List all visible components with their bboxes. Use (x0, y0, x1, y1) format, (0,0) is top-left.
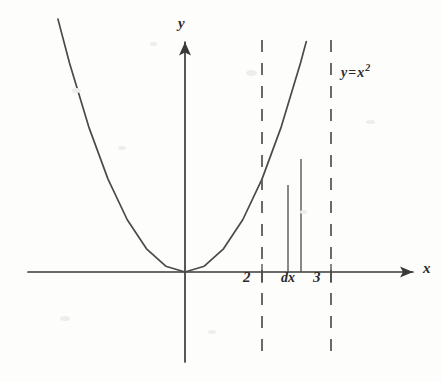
figure-canvas (0, 0, 442, 382)
parabola-curve-main (58, 19, 306, 272)
strip-width-label-dx: dx (281, 271, 295, 285)
x-tick-label-3: 3 (313, 270, 321, 285)
curve-equation-label: y=x2 (341, 63, 370, 80)
x-tick-label-2: 2 (243, 270, 251, 285)
math-figure-parabola-riemann-strip: y x 2 3 dx y=x2 (0, 0, 442, 382)
curve-equation-exponent: 2 (364, 62, 370, 73)
x-axis-label: x (423, 261, 431, 276)
y-axis-label: y (178, 16, 185, 31)
curve-equation-equals: = (347, 65, 357, 80)
